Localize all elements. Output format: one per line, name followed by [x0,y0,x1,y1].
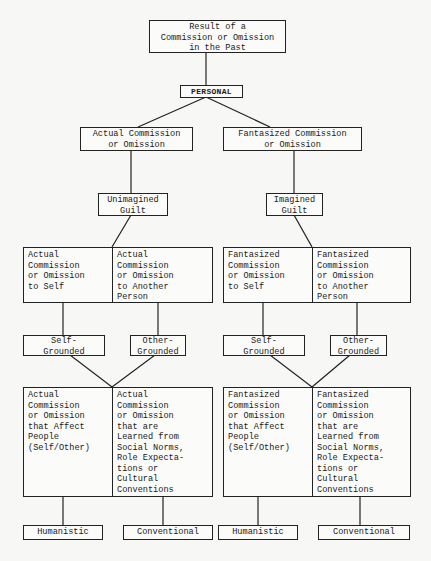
right-target-group: Fantasized Commission or Omission to Sel… [223,247,411,303]
actual-learned-norms-node: Actual Commission or Omission that are L… [113,388,213,496]
left-other-grounded-node: Other- Grounded [130,335,186,356]
imagined-guilt-node: Imagined Guilt [266,193,323,216]
right-other-grounded-node: Other- Grounded [330,335,387,356]
right-self-grounded-node: Self- Grounded [223,335,305,356]
fantasized-learned-norms-node: Fantasized Commission or Omission that a… [313,388,411,496]
left-conventional-node: Conventional [123,525,213,540]
right-humanistic-node: Humanistic [218,525,298,540]
fantasized-to-another-node: Fantasized Commission or Omission to Ano… [313,248,411,302]
actual-affect-people-node: Actual Commission or Omission that Affec… [24,388,113,496]
actual-to-self-node: Actual Commission or Omission to Self [24,248,113,302]
fantasized-to-self-node: Fantasized Commission or Omission to Sel… [224,248,313,302]
left-source-group: Actual Commission or Omission that Affec… [23,387,213,497]
left-humanistic-node: Humanistic [23,525,103,540]
right-conventional-node: Conventional [318,525,410,540]
actual-to-another-node: Actual Commission or Omission to Another… [113,248,213,302]
left-target-group: Actual Commission or Omission to Self Ac… [23,247,213,303]
personal-node: PERSONAL [180,85,243,98]
fantasized-affect-people-node: Fantasized Commission or Omission that A… [224,388,313,496]
fantasized-commission-node: Fantasized Commission or Omission [223,127,362,151]
root-node: Result of a Commission or Omission in th… [149,20,286,53]
actual-commission-node: Actual Commission or Omission [80,127,193,151]
left-self-grounded-node: Self- Grounded [23,335,105,356]
unimagined-guilt-node: Unimagined Guilt [98,193,168,216]
right-source-group: Fantasized Commission or Omission that A… [223,387,411,497]
